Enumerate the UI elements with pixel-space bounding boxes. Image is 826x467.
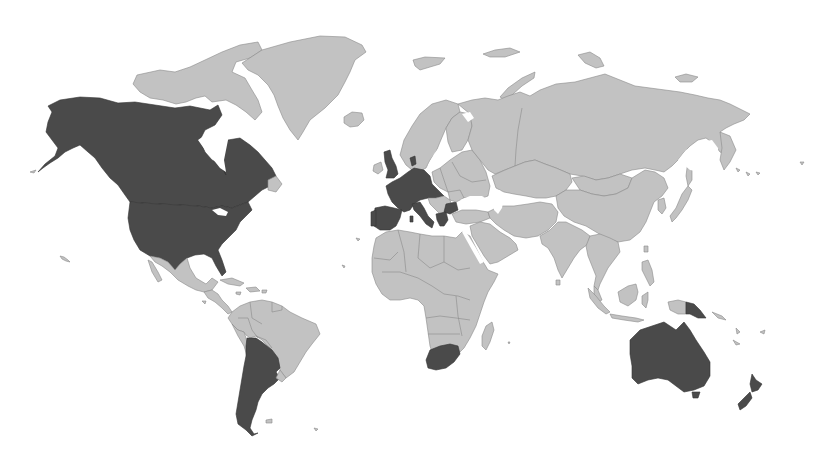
galapagos[interactable] [202,301,206,304]
country-svalbard[interactable] [413,57,445,70]
region-africa [372,230,498,370]
country-sardinia[interactable] [410,216,413,222]
country-new-zealand-south[interactable] [738,392,752,410]
country-papua-new-guinea[interactable] [686,302,706,318]
region-north-america [38,97,282,314]
country-cuba[interactable] [220,278,244,286]
country-solomon-islands[interactable] [712,312,726,320]
country-australia[interactable] [630,322,710,392]
country-hispaniola[interactable] [246,287,260,292]
country-argentina[interactable] [236,338,280,436]
country-japan[interactable] [670,186,692,222]
country-greece[interactable] [436,212,448,226]
country-new-zealand-north[interactable] [750,374,762,392]
country-tasmania[interactable] [692,392,700,398]
south-georgia[interactable] [314,428,318,431]
world-map [0,0,826,467]
country-philippines[interactable] [642,260,654,286]
country-africa[interactable] [372,230,498,364]
kamchatka[interactable] [720,132,736,170]
country-jamaica[interactable] [236,292,241,295]
country-turkey[interactable] [452,210,490,224]
country-korea[interactable] [658,198,666,214]
mauritius[interactable] [508,342,510,344]
country-ireland[interactable] [373,162,383,174]
country-fiji[interactable] [760,330,765,334]
country-vanuatu[interactable] [736,328,740,334]
country-new-siberian-islands[interactable] [675,74,698,82]
country-united-states[interactable] [128,202,252,276]
country-central-america[interactable] [204,290,232,314]
kuril-islands[interactable] [736,168,740,172]
country-portugal[interactable] [371,210,376,226]
country-united-kingdom[interactable] [384,150,398,178]
aleutian-dot[interactable] [800,162,804,165]
aleutians[interactable] [30,170,36,173]
kuril-islands-3[interactable] [756,172,760,175]
canary-islands[interactable] [356,238,360,241]
country-puerto-rico[interactable] [262,290,267,293]
region-south-america [228,300,320,436]
country-spain[interactable] [374,206,402,230]
country-iceland[interactable] [344,112,364,127]
country-west-papua[interactable] [668,300,686,314]
country-new-caledonia[interactable] [733,340,740,345]
country-java[interactable] [610,314,644,322]
country-madagascar[interactable] [482,322,494,350]
country-southeast-asia[interactable] [586,234,620,290]
region-oceania [630,322,762,410]
country-mexico[interactable] [150,256,218,292]
country-falklands[interactable] [266,419,272,423]
country-franz-josef-land[interactable] [483,48,520,57]
country-taiwan[interactable] [644,246,648,252]
country-borneo[interactable] [618,284,638,306]
country-sulawesi[interactable] [642,292,648,308]
country-severnaya-zemlya[interactable] [578,52,604,68]
country-italy[interactable] [412,202,434,228]
country-canada[interactable] [38,97,276,208]
hawaii-islands[interactable] [60,256,70,262]
kuril-islands-2[interactable] [746,172,750,176]
cape-verde[interactable] [342,265,345,268]
country-sri-lanka[interactable] [556,280,560,285]
